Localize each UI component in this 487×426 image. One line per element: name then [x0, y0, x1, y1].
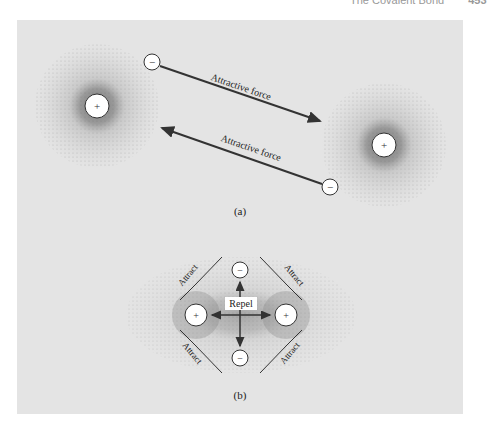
nucleus-right-icon: + — [372, 133, 396, 157]
caption-a: (a) — [234, 205, 246, 217]
svg-text:−: − — [237, 265, 243, 276]
svg-text:+: + — [283, 310, 289, 321]
nucleus-b-left-icon: + — [185, 304, 207, 326]
electron-b-bottom-icon: − — [232, 350, 248, 366]
electron-top-icon: − — [144, 54, 160, 70]
attractive-force-arrow-top — [160, 66, 320, 121]
nucleus-b-right-icon: + — [275, 304, 297, 326]
svg-text:−: − — [327, 181, 333, 193]
electron-bottom-icon: − — [322, 179, 338, 195]
repel-label: Repel — [229, 298, 253, 309]
nucleus-left-icon: + — [85, 94, 109, 118]
svg-text:+: + — [193, 310, 199, 321]
svg-text:+: + — [94, 100, 100, 112]
svg-text:−: − — [149, 56, 155, 68]
svg-text:+: + — [381, 139, 387, 151]
svg-text:−: − — [237, 353, 243, 364]
caption-b: (b) — [234, 389, 247, 401]
electron-b-top-icon: − — [232, 262, 248, 278]
attractive-force-arrow-bottom — [162, 128, 322, 184]
